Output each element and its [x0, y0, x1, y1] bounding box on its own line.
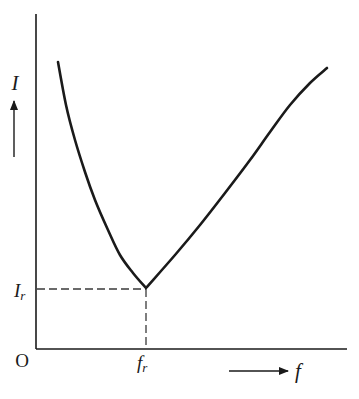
origin-label: O [15, 350, 29, 371]
current-frequency-curve [58, 62, 327, 288]
ir-label: Ir [13, 280, 26, 303]
resonance-curve-diagram: I f O Ir fr [0, 0, 359, 399]
fr-label-sub: r [142, 360, 148, 375]
x-axis-label: f [295, 359, 304, 383]
ir-label-sub: r [20, 288, 26, 303]
y-axis-label: I [11, 71, 20, 95]
fr-label: fr [137, 352, 148, 375]
